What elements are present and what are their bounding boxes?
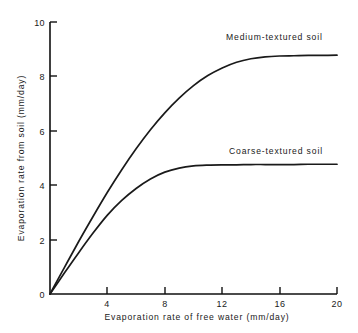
y-tick-label-6: 6 <box>40 127 45 137</box>
series-line-medium-textured-soil <box>50 55 337 294</box>
y-axis-title: Evaporation rate from soil (mm/day) <box>16 75 26 241</box>
x-tick-label-16: 16 <box>275 299 286 309</box>
x-axis-ticks <box>107 287 337 294</box>
x-tick-label-4: 4 <box>104 299 109 309</box>
chart-figure: 10 8 6 4 2 0 4 8 12 16 20 Evaporation ra… <box>0 0 358 333</box>
series-annotation-coarse: Coarse-textured soil <box>229 146 323 156</box>
y-tick-label-0: 0 <box>40 290 45 300</box>
y-tick-label-8: 8 <box>40 72 45 82</box>
chart-svg: 10 8 6 4 2 0 4 8 12 16 20 Evaporation ra… <box>0 0 358 333</box>
y-tick-label-4: 4 <box>40 181 45 191</box>
y-tick-label-10: 10 <box>34 18 45 28</box>
x-tick-label-8: 8 <box>162 299 167 309</box>
axis-lines <box>50 22 337 294</box>
y-axis-ticks <box>50 22 57 240</box>
y-tick-label-2: 2 <box>40 236 45 246</box>
x-tick-label-20: 20 <box>332 299 343 309</box>
x-axis-title: Evaporation rate of free water (mm/day) <box>104 312 289 322</box>
series-annotation-medium: Medium-textured soil <box>226 32 323 42</box>
series-line-coarse-textured-soil <box>50 164 337 294</box>
x-tick-label-12: 12 <box>217 299 228 309</box>
